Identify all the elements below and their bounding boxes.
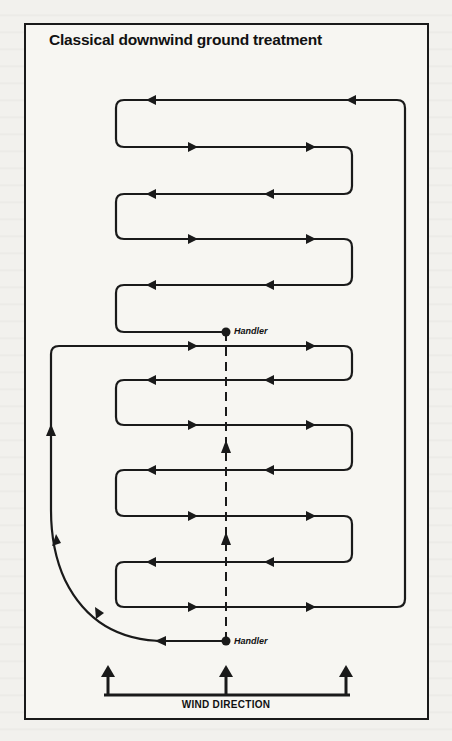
handler-top-label: Handler: [234, 326, 268, 336]
upper-flight-path: [51, 100, 405, 641]
wind-direction-arrows: [101, 665, 353, 695]
wind-direction-label: WIND DIRECTION: [0, 699, 452, 710]
flight-path-diagram: [0, 0, 452, 741]
handler-top-dot: [222, 328, 231, 337]
handler-bottom-dot: [222, 637, 231, 646]
direction-arrows: [46, 95, 356, 646]
handler-bottom-label: Handler: [234, 636, 268, 646]
